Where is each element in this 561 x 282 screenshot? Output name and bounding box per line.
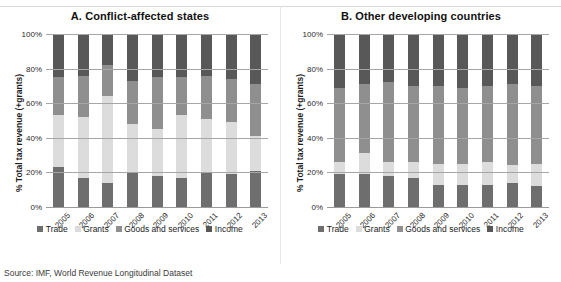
bar-segment-trade bbox=[457, 185, 468, 207]
gridline-60 bbox=[46, 103, 268, 104]
bar-segment-income bbox=[359, 34, 370, 84]
bar-segment-income bbox=[408, 34, 419, 86]
bar-segment-goods-and-services bbox=[53, 77, 64, 115]
bar-segment-goods-and-services bbox=[250, 84, 261, 136]
gridline-20 bbox=[327, 172, 549, 173]
bar-segment-trade bbox=[201, 172, 212, 207]
stacked-bar[interactable] bbox=[127, 34, 138, 207]
chart-b-legend: TradeGrantsGoods and servicesIncome bbox=[281, 224, 561, 234]
legend-item-goods-and-services[interactable]: Goods and services bbox=[116, 224, 200, 234]
stacked-bar[interactable] bbox=[457, 34, 468, 207]
chart-panel-a: A. Conflict-affected states % Total tax … bbox=[0, 6, 280, 264]
bar-slot bbox=[46, 34, 71, 207]
bar-segment-grants bbox=[250, 136, 261, 171]
stacked-bar[interactable] bbox=[531, 34, 542, 207]
bar-segment-grants bbox=[507, 165, 518, 182]
bar-segment-trade bbox=[334, 174, 345, 207]
bar-slot bbox=[194, 34, 219, 207]
bar-slot bbox=[243, 34, 268, 207]
bar-segment-goods-and-services bbox=[201, 76, 212, 119]
gridline-100 bbox=[46, 34, 268, 35]
chart-b-y-tick-labels: 0%20%40%60%80%100% bbox=[293, 34, 323, 207]
bar-segment-goods-and-services bbox=[359, 84, 370, 153]
legend-item-income[interactable]: Income bbox=[487, 224, 523, 234]
bar-segment-goods-and-services bbox=[334, 88, 345, 162]
legend-swatch-icon bbox=[356, 226, 362, 232]
bar-segment-income bbox=[53, 34, 64, 77]
chart-a-plot bbox=[46, 34, 268, 207]
bar-segment-trade bbox=[359, 174, 370, 207]
legend-swatch-icon bbox=[487, 226, 493, 232]
stacked-bar[interactable] bbox=[53, 34, 64, 207]
stacked-bar[interactable] bbox=[201, 34, 212, 207]
bar-slot bbox=[426, 34, 451, 207]
bar-segment-income bbox=[127, 34, 138, 81]
bar-slot bbox=[475, 34, 500, 207]
legend-item-trade[interactable]: Trade bbox=[37, 224, 67, 234]
stacked-bar[interactable] bbox=[78, 34, 89, 207]
charts-container: A. Conflict-affected states % Total tax … bbox=[0, 6, 561, 264]
legend-swatch-icon bbox=[397, 226, 403, 232]
y-tick-label: 0% bbox=[12, 203, 42, 212]
gridline-0 bbox=[327, 207, 549, 208]
bar-segment-grants bbox=[201, 119, 212, 173]
bar-segment-income bbox=[334, 34, 345, 88]
gridline-60 bbox=[327, 103, 549, 104]
stacked-bar[interactable] bbox=[433, 34, 444, 207]
bar-slot bbox=[524, 34, 549, 207]
stacked-bar[interactable] bbox=[507, 34, 518, 207]
legend-item-grants[interactable]: Grants bbox=[356, 224, 390, 234]
y-tick-label: 60% bbox=[12, 99, 42, 108]
legend-label: Goods and services bbox=[405, 224, 480, 234]
bar-segment-income bbox=[531, 34, 542, 86]
bar-slot bbox=[450, 34, 475, 207]
y-tick-label: 40% bbox=[293, 133, 323, 142]
legend-item-goods-and-services[interactable]: Goods and services bbox=[397, 224, 481, 234]
chart-a-legend: TradeGrantsGoods and servicesIncome bbox=[0, 224, 280, 234]
y-tick-label: 60% bbox=[293, 99, 323, 108]
stacked-bar[interactable] bbox=[152, 34, 163, 207]
bar-segment-goods-and-services bbox=[482, 86, 493, 162]
stacked-bar[interactable] bbox=[383, 34, 394, 207]
stacked-bar[interactable] bbox=[176, 34, 187, 207]
y-tick-label: 80% bbox=[12, 64, 42, 73]
legend-label: Grants bbox=[364, 224, 390, 234]
bar-segment-grants bbox=[226, 122, 237, 174]
stacked-bar[interactable] bbox=[359, 34, 370, 207]
bar-segment-income bbox=[507, 34, 518, 84]
legend-item-grants[interactable]: Grants bbox=[75, 224, 109, 234]
bar-segment-goods-and-services bbox=[531, 86, 542, 164]
stacked-bar[interactable] bbox=[334, 34, 345, 207]
bar-segment-income bbox=[250, 34, 261, 84]
legend-label: Income bbox=[215, 224, 243, 234]
bar-segment-grants bbox=[383, 162, 394, 176]
y-tick-label: 20% bbox=[293, 168, 323, 177]
bar-slot bbox=[120, 34, 145, 207]
y-tick-label: 40% bbox=[12, 133, 42, 142]
bar-segment-trade bbox=[152, 176, 163, 207]
bar-segment-trade bbox=[102, 183, 113, 207]
stacked-bar[interactable] bbox=[482, 34, 493, 207]
legend-item-trade[interactable]: Trade bbox=[318, 224, 348, 234]
bar-segment-trade bbox=[482, 185, 493, 207]
bar-segment-goods-and-services bbox=[78, 76, 89, 118]
bar-segment-trade bbox=[250, 171, 261, 207]
bar-segment-grants bbox=[152, 129, 163, 176]
gridline-80 bbox=[327, 69, 549, 70]
bar-segment-grants bbox=[359, 153, 370, 174]
stacked-bar[interactable] bbox=[408, 34, 419, 207]
legend-label: Income bbox=[496, 224, 524, 234]
legend-swatch-icon bbox=[116, 226, 122, 232]
legend-item-income[interactable]: Income bbox=[206, 224, 242, 234]
bar-segment-goods-and-services bbox=[457, 88, 468, 164]
bar-segment-goods-and-services bbox=[176, 77, 187, 115]
y-tick-label: 100% bbox=[293, 30, 323, 39]
stacked-bar[interactable] bbox=[102, 34, 113, 207]
bar-segment-grants bbox=[457, 164, 468, 185]
legend-swatch-icon bbox=[206, 226, 212, 232]
stacked-bar[interactable] bbox=[250, 34, 261, 207]
y-tick-label: 100% bbox=[12, 30, 42, 39]
stacked-bar[interactable] bbox=[226, 34, 237, 207]
bar-segment-income bbox=[383, 34, 394, 82]
legend-swatch-icon bbox=[318, 226, 324, 232]
